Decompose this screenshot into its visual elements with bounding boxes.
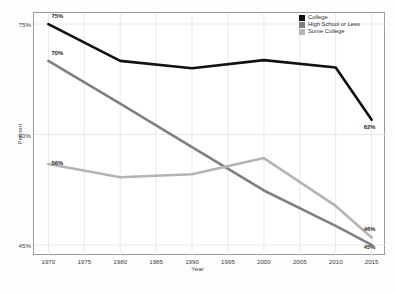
data-point-label: 75% — [52, 13, 64, 19]
x-tick-label: 1995 — [221, 258, 235, 265]
y-tick-label: 75% — [19, 21, 31, 28]
legend-swatch-icon — [299, 22, 305, 28]
x-axis-title: Year — [191, 265, 204, 272]
series-lines — [34, 13, 386, 256]
x-tick-label: 2010 — [329, 258, 343, 265]
y-axis-title: Percent — [17, 123, 23, 143]
x-tick-label: 1975 — [77, 258, 91, 265]
series-line — [48, 24, 371, 120]
x-tick-label: 1985 — [149, 258, 163, 265]
legend-item-label: Some College — [308, 29, 344, 35]
x-tick-label: 2000 — [257, 258, 271, 265]
legend-item[interactable]: High School or Less — [299, 22, 360, 28]
legend-swatch-icon — [299, 15, 305, 21]
chart-legend: CollegeHigh School or LessSome College — [299, 15, 360, 35]
x-tick-label: 2015 — [365, 258, 379, 265]
legend-item[interactable]: Some College — [299, 29, 360, 35]
legend-item-label: College — [308, 15, 328, 21]
x-tick-label: 1970 — [41, 258, 55, 265]
legend-item[interactable]: College — [299, 15, 360, 21]
data-point-label: 70% — [52, 50, 64, 56]
series-line — [48, 158, 371, 238]
data-point-label: 56% — [52, 160, 64, 166]
legend-swatch-icon — [299, 29, 305, 35]
x-tick-label: 1990 — [185, 258, 199, 265]
plot-area: 75%60%45% 197019751980198519901995200020… — [33, 12, 385, 255]
y-tick-label: 45% — [19, 241, 31, 248]
x-tick-label: 2005 — [293, 258, 307, 265]
data-point-label: 46% — [364, 226, 376, 232]
x-tick-label: 1980 — [113, 258, 127, 265]
legend-item-label: High School or Less — [308, 22, 360, 28]
data-point-label: 45% — [364, 244, 376, 250]
data-point-label: 62% — [364, 124, 376, 130]
line-chart: 75%60%45% 197019751980198519901995200020… — [0, 0, 395, 294]
series-line — [48, 61, 371, 245]
